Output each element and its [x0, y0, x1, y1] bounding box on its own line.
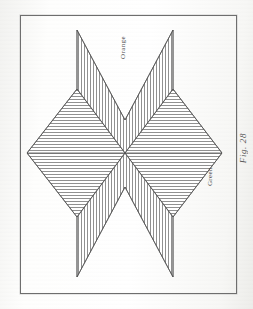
figure-caption: Fig. 28 — [238, 133, 248, 163]
region-label-green: Green — [206, 167, 214, 186]
scanned-page: Orange Green Fig. 28 — [0, 0, 253, 309]
region-label-orange: Orange — [119, 36, 127, 59]
